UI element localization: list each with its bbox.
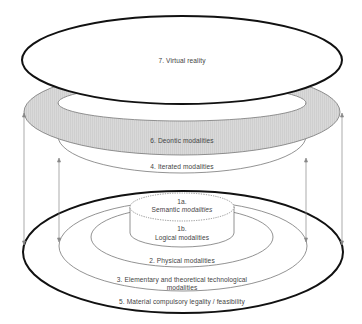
layer-1a-number: 1a. bbox=[177, 198, 187, 205]
modalities-diagram: 7. Virtual reality 6. Deontic modalities… bbox=[0, 0, 362, 324]
layer-2-label: 2. Physical modalities bbox=[149, 257, 215, 265]
layer-4-label: 4. Iterated modalities bbox=[150, 163, 214, 170]
layer-5-label: 5. Material compulsory legality / feasib… bbox=[119, 298, 245, 306]
layer-1b-label: Logical modalities bbox=[155, 234, 210, 242]
arrow-up-icon bbox=[305, 158, 308, 162]
layer-3-label-line1: 3. Elementary and theoretical technologi… bbox=[117, 276, 248, 284]
layer-6-label: 6. Deontic modalities bbox=[150, 137, 214, 144]
arrow-up-icon bbox=[58, 158, 61, 162]
layer-1a-label: Semantic modalities bbox=[152, 206, 214, 213]
layer-1b-number: 1b. bbox=[177, 225, 187, 232]
layer-1a-label-plain: Semantic bbox=[152, 206, 181, 213]
layer-3-label-line2: modalities bbox=[167, 284, 198, 291]
diagram-canvas: 7. Virtual reality 6. Deontic modalities… bbox=[0, 0, 362, 324]
arrow-up-icon bbox=[341, 113, 344, 117]
layer-1a-label-italic: modalities bbox=[182, 206, 213, 213]
layer-7-label: 7. Virtual reality bbox=[158, 57, 206, 65]
